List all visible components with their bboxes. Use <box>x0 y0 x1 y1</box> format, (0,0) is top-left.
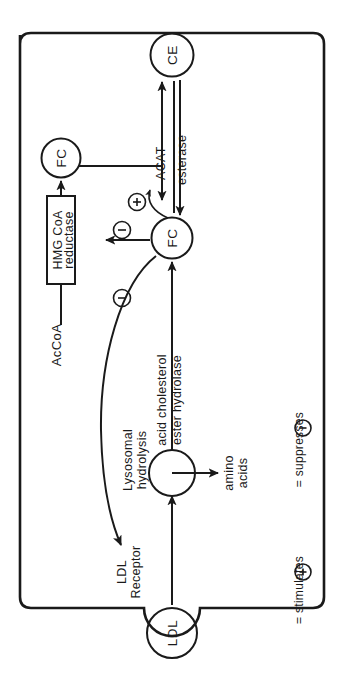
legend-suppresses: = suppresses <box>292 412 311 487</box>
node-fc-pool: FC <box>152 218 193 259</box>
node-ldl: LDL <box>147 608 197 658</box>
legend-suppresses-text: = suppresses <box>292 412 306 487</box>
label-ldl-receptor-line2: Receptor <box>129 545 143 598</box>
diagram-canvas: CE FC ACAT esterase FC <box>0 0 341 682</box>
node-fc-cytosolic: FC <box>42 139 81 178</box>
label-accoa: AcCoA <box>49 324 64 366</box>
label-amino-line2: acids <box>236 458 250 489</box>
label-lysosomal-line1: Lysosomal <box>121 429 135 491</box>
enzyme-acid-chol-line1: acid cholesterol <box>155 354 169 446</box>
arrow-fc-to-ldl-receptor <box>101 256 156 545</box>
enzyme-acat-label: ACAT <box>154 146 168 180</box>
node-fc-pool-label: FC <box>165 228 180 247</box>
legend-stimulates: = stimulates <box>292 556 311 624</box>
enzyme-esterase-label: esterase <box>175 135 189 185</box>
enzyme-box-hmg-coa-reductase: HMG CoA reductase <box>47 196 76 284</box>
node-ce: CE <box>151 34 194 77</box>
hmg-line2: reductase <box>62 211 76 269</box>
label-amino-line1: amino <box>222 455 236 491</box>
node-fc-cytosolic-label: FC <box>54 148 69 167</box>
node-ce-label: CE <box>165 45 180 65</box>
pathway-diagram-svg: CE FC ACAT esterase FC <box>0 0 341 682</box>
enzyme-acid-chol-line2: ester hydrolase <box>170 355 184 445</box>
legend-stimulates-text: = stimulates <box>292 556 306 624</box>
label-ldl-receptor-line1: LDL <box>115 560 129 584</box>
label-lysosomal-line2: hydrolysis <box>135 431 149 490</box>
node-ldl-label: LDL <box>165 620 180 647</box>
regulator-minus-hmg <box>114 222 131 239</box>
